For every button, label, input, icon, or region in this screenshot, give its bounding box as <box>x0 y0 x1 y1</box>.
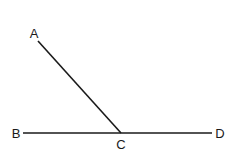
label-c: C <box>116 137 125 152</box>
label-b: B <box>12 126 21 141</box>
label-a: A <box>30 26 39 41</box>
label-d: D <box>215 126 224 141</box>
angle-diagram: A B C D <box>0 0 238 158</box>
segment-ac <box>38 41 121 133</box>
